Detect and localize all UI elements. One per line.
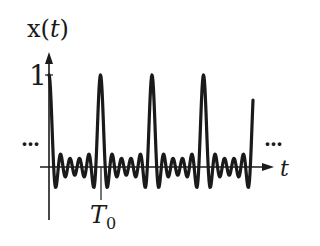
- y-label-suffix: ): [60, 15, 69, 43]
- ellipsis-left: ...: [21, 129, 39, 149]
- x-axis-label: t: [280, 158, 289, 180]
- ellipsis-right: ...: [264, 129, 282, 149]
- period-label-sub: 0: [106, 214, 116, 233]
- y-axis-label: x(t): [27, 17, 69, 41]
- y-label-prefix: x(: [27, 15, 50, 43]
- signal-curve: [49, 75, 253, 187]
- period-label: T0: [90, 203, 116, 227]
- y-label-var: t: [50, 15, 60, 43]
- period-label-main: T: [90, 201, 106, 229]
- x-axis-arrow-icon: [262, 163, 274, 171]
- y-tick-label: 1: [29, 62, 47, 90]
